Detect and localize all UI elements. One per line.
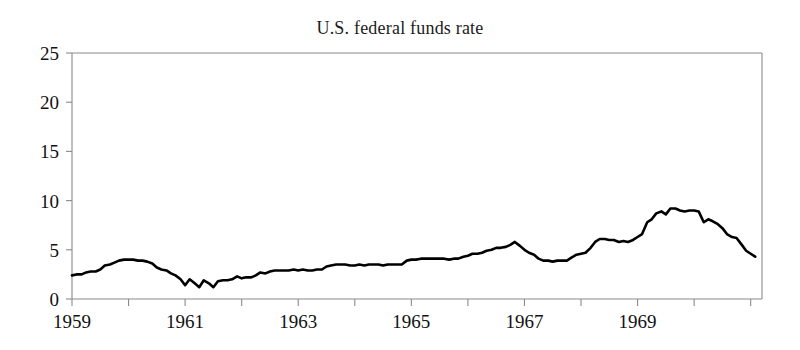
- x-tick-label: 1959: [53, 311, 91, 332]
- x-tick-label: 1969: [619, 311, 657, 332]
- y-tick-label: 0: [50, 289, 60, 310]
- y-tick-label: 5: [50, 240, 60, 261]
- y-tick-marks: [66, 53, 72, 299]
- axes-group: [72, 53, 762, 299]
- series-line-federal-funds-rate: [72, 208, 755, 287]
- x-tick-label: 1967: [505, 311, 543, 332]
- y-tick-label: 20: [40, 92, 59, 113]
- x-tick-labels: 195919611963196519671969: [53, 311, 657, 332]
- y-tick-label: 10: [40, 191, 59, 212]
- y-tick-label: 25: [40, 43, 59, 64]
- line-chart-plot: 0510152025 195919611963196519671969: [0, 0, 800, 350]
- x-tick-marks: [72, 299, 751, 306]
- y-tick-labels: 0510152025: [40, 43, 59, 310]
- x-tick-label: 1963: [279, 311, 317, 332]
- y-tick-label: 15: [40, 141, 59, 162]
- x-tick-label: 1961: [166, 311, 204, 332]
- chart-page: U.S. federal funds rate 0510152025 19591…: [0, 0, 800, 350]
- x-tick-label: 1965: [392, 311, 430, 332]
